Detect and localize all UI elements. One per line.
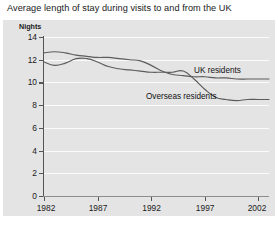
y-tick-label-text: 4 bbox=[32, 146, 37, 156]
y-tick-label-text: 14 bbox=[28, 32, 37, 42]
chart-figure: Average length of stay during visits to … bbox=[0, 0, 278, 225]
x-tick bbox=[44, 197, 45, 201]
gridline bbox=[44, 37, 269, 38]
x-tick bbox=[205, 197, 206, 201]
y-tick bbox=[39, 105, 43, 106]
x-tick bbox=[151, 197, 152, 201]
y-tick-label-text: 12 bbox=[28, 55, 37, 65]
x-axis-line bbox=[43, 196, 269, 197]
plot-area bbox=[44, 37, 269, 196]
y-tick-label-text: 8 bbox=[32, 100, 37, 110]
y-tick-label-text: 10 bbox=[28, 77, 37, 87]
y-tick-label-text: 2 bbox=[32, 168, 37, 178]
gridline bbox=[44, 60, 269, 61]
y-tick bbox=[39, 82, 43, 83]
y-tick bbox=[39, 128, 43, 129]
y-tick bbox=[39, 37, 43, 38]
x-tick bbox=[258, 197, 259, 201]
gridline bbox=[44, 82, 269, 83]
y-tick-label-text: 6 bbox=[32, 123, 37, 133]
x-tick-label: 1987 bbox=[89, 203, 108, 213]
gridline bbox=[44, 128, 269, 129]
series-label-overseas-residents: Overseas residents bbox=[146, 92, 217, 101]
y-axis-line bbox=[43, 36, 44, 197]
y-tick bbox=[39, 60, 43, 61]
y-tick-label-text: 0 bbox=[32, 191, 37, 201]
y-tick bbox=[39, 151, 43, 152]
x-tick-label: 2002 bbox=[248, 203, 267, 213]
y-tick bbox=[39, 196, 43, 197]
x-tick bbox=[98, 197, 99, 201]
x-tick-label: 1992 bbox=[142, 203, 161, 213]
series-label-uk-residents: UK residents bbox=[194, 66, 241, 75]
x-tick-label: 1997 bbox=[196, 203, 215, 213]
y-tick bbox=[39, 173, 43, 174]
gridline bbox=[44, 105, 269, 106]
y-axis-unit-label: Nights bbox=[19, 22, 41, 31]
x-tick-label: 1982 bbox=[37, 203, 56, 213]
gridline bbox=[44, 151, 269, 152]
gridline bbox=[44, 173, 269, 174]
chart-title: Average length of stay during visits to … bbox=[7, 3, 273, 14]
